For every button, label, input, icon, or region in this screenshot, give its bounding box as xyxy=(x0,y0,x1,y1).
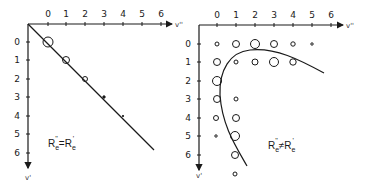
right-equation: Re''≠Re' xyxy=(268,137,296,153)
svg-text:3: 3 xyxy=(101,9,107,19)
svg-text:6: 6 xyxy=(328,10,334,20)
left-x-axis-label: v'' xyxy=(175,21,183,29)
svg-text:3: 3 xyxy=(185,94,191,104)
svg-text:1: 1 xyxy=(63,9,69,19)
svg-text:0: 0 xyxy=(14,37,20,47)
svg-text:0: 0 xyxy=(214,10,220,20)
svg-text:5: 5 xyxy=(14,129,20,139)
right-panel: 0 1 2 3 4 5 6 v'' 0 1 2 3 4 5 6 v' xyxy=(185,10,354,180)
svg-text:2: 2 xyxy=(252,10,258,20)
svg-text:3: 3 xyxy=(14,92,20,102)
svg-text:0: 0 xyxy=(45,9,51,19)
left-equation: Re''=Re' xyxy=(48,135,76,151)
left-y-axis-label: v' xyxy=(25,174,31,182)
svg-text:Re''=Re': Re''=Re' xyxy=(48,135,76,151)
right-x-tick-labels: 0 1 2 3 4 5 6 xyxy=(214,10,334,20)
svg-text:Re''≠Re': Re''≠Re' xyxy=(268,137,296,153)
svg-text:1: 1 xyxy=(233,10,239,20)
svg-text:5: 5 xyxy=(185,131,191,141)
svg-text:5: 5 xyxy=(139,9,145,19)
svg-text:0: 0 xyxy=(185,39,191,49)
left-y-tick-labels: 0 1 2 3 4 5 6 xyxy=(14,37,20,158)
svg-text:5: 5 xyxy=(309,10,315,20)
svg-text:2: 2 xyxy=(185,76,191,86)
svg-text:6: 6 xyxy=(158,9,164,19)
svg-text:4: 4 xyxy=(14,111,20,121)
svg-text:6: 6 xyxy=(185,150,191,160)
left-intensity-circles xyxy=(43,37,124,117)
right-y-tick-labels: 0 1 2 3 4 5 6 xyxy=(185,39,191,160)
svg-text:4: 4 xyxy=(185,113,191,123)
right-x-axis-label: v'' xyxy=(346,22,354,30)
svg-text:4: 4 xyxy=(120,9,126,19)
right-y-axis-label: v' xyxy=(196,172,202,180)
svg-text:1: 1 xyxy=(14,55,20,65)
svg-text:4: 4 xyxy=(290,10,296,20)
svg-text:3: 3 xyxy=(271,10,277,20)
svg-text:2: 2 xyxy=(14,74,20,84)
left-diagonal-curve xyxy=(28,24,154,150)
left-x-tick-labels: 0 1 2 3 4 5 6 xyxy=(45,9,164,19)
franck-condon-diagrams: 0 1 2 3 4 5 6 v'' 0 1 2 3 4 5 6 v' xyxy=(0,0,372,190)
left-panel: 0 1 2 3 4 5 6 v'' 0 1 2 3 4 5 6 v' xyxy=(14,9,183,182)
svg-text:6: 6 xyxy=(14,148,20,158)
svg-text:1: 1 xyxy=(185,57,191,67)
svg-text:2: 2 xyxy=(82,9,88,19)
